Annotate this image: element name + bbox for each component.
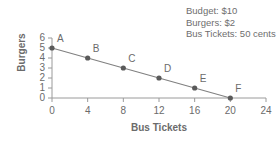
y-tick-label-5: 5 (31, 42, 45, 53)
y-tick-label-4: 4 (31, 52, 45, 63)
point-label-E: E (200, 73, 207, 84)
x-tick-label-0: 0 (41, 105, 63, 116)
y-tick-label-0: 0 (31, 92, 45, 103)
y-tick-label-3: 3 (31, 62, 45, 73)
point-label-B: B (93, 43, 100, 54)
x-tick-label-12: 12 (148, 105, 170, 116)
data-point-A (49, 45, 54, 50)
y-tick-label-1: 1 (31, 82, 45, 93)
point-label-D: D (164, 63, 171, 74)
data-point-D (156, 75, 161, 80)
point-label-F: F (235, 83, 241, 94)
data-point-B (85, 55, 90, 60)
point-label-C: C (128, 53, 135, 64)
data-point-C (121, 65, 126, 70)
y-tick-label-6: 6 (31, 32, 45, 43)
data-point-F (228, 95, 233, 100)
x-tick-label-8: 8 (112, 105, 134, 116)
axes-group (52, 38, 266, 98)
x-tick-marks (52, 98, 266, 102)
budget-constraint-chart: Budget: $10 Burgers: $2 Bus Tickets: 50 … (0, 0, 280, 142)
y-tick-label-2: 2 (31, 72, 45, 83)
x-tick-label-24: 24 (255, 105, 277, 116)
x-tick-label-4: 4 (77, 105, 99, 116)
point-label-A: A (57, 33, 64, 44)
data-point-E (192, 85, 197, 90)
x-tick-label-20: 20 (219, 105, 241, 116)
x-tick-label-16: 16 (184, 105, 206, 116)
